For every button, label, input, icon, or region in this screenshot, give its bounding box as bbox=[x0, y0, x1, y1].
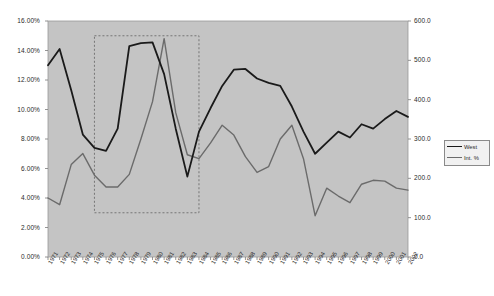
left-axis-tick-label: 12.00% bbox=[6, 76, 40, 83]
left-axis-tick-label: 10.00% bbox=[6, 106, 40, 113]
left-axis-tick-label: 6.00% bbox=[6, 165, 40, 172]
right-axis-ticks bbox=[408, 21, 411, 257]
chart-container: 0.00%2.00%4.00%6.00%8.00%10.00%12.00%14.… bbox=[0, 0, 494, 296]
left-axis-ticks bbox=[45, 21, 48, 257]
legend-swatch-icon bbox=[447, 157, 462, 158]
legend-item-label: West bbox=[464, 144, 477, 150]
line-chart-plot bbox=[0, 0, 494, 296]
chart-legend: WestInt. % bbox=[444, 140, 490, 166]
left-axis-tick-label: 14.00% bbox=[6, 47, 40, 54]
right-axis-tick-label: 600.0 bbox=[414, 17, 444, 24]
right-axis-tick-label: 500.0 bbox=[414, 56, 444, 63]
right-axis-tick-label: 200.0 bbox=[414, 174, 444, 181]
plot-area-background bbox=[48, 21, 408, 257]
left-axis-tick-label: 16.00% bbox=[6, 17, 40, 24]
left-axis-tick-label: 2.00% bbox=[6, 224, 40, 231]
left-axis-tick-label: 4.00% bbox=[6, 194, 40, 201]
legend-swatch-icon bbox=[447, 146, 462, 147]
right-axis-tick-label: 300.0 bbox=[414, 135, 444, 142]
left-axis-tick-label: 0.00% bbox=[6, 253, 40, 260]
legend-item-west[interactable]: West bbox=[445, 141, 489, 152]
right-axis-tick-label: 400.0 bbox=[414, 96, 444, 103]
left-axis-tick-label: 8.00% bbox=[6, 135, 40, 142]
right-axis-tick-label: 100.0 bbox=[414, 214, 444, 221]
legend-item-label: Int. % bbox=[464, 155, 479, 161]
legend-item-int-pct[interactable]: Int. % bbox=[445, 152, 489, 163]
